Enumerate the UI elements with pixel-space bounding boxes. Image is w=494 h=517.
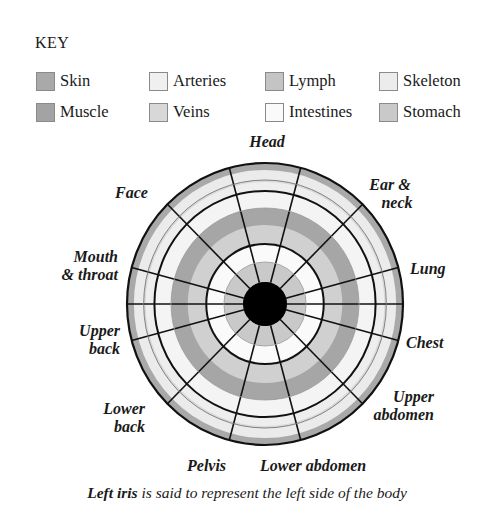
label-ear-neck-line1: Ear & bbox=[360, 176, 420, 194]
label-upper-abdomen: Upper abdomen bbox=[352, 388, 434, 424]
label-ear-neck: Ear & neck bbox=[360, 176, 420, 212]
label-lower-back-line1: Lower bbox=[80, 400, 145, 418]
label-upper-abdomen-line2: abdomen bbox=[352, 406, 434, 424]
label-upper-back-line2: back bbox=[55, 340, 120, 358]
caption-text: is said to represent the left side of th… bbox=[138, 484, 407, 501]
label-ear-neck-line2: neck bbox=[360, 194, 420, 212]
label-lower-abdomen: Lower abdomen bbox=[260, 457, 366, 475]
label-head: Head bbox=[232, 133, 302, 151]
label-mouth-throat: Mouth & throat bbox=[30, 248, 118, 284]
label-upper-back-line1: Upper bbox=[55, 322, 120, 340]
label-pelvis: Pelvis bbox=[187, 457, 226, 475]
label-lower-back-line2: back bbox=[80, 418, 145, 436]
label-chest: Chest bbox=[406, 334, 443, 352]
pupil bbox=[243, 282, 287, 326]
caption-bold: Left iris bbox=[87, 484, 137, 501]
label-face: Face bbox=[115, 184, 148, 202]
label-head-text: Head bbox=[249, 133, 285, 150]
label-lower-back: Lower back bbox=[80, 400, 145, 436]
label-upper-back: Upper back bbox=[55, 322, 120, 358]
label-mouth-throat-line1: Mouth bbox=[30, 248, 118, 266]
caption: Left iris is said to represent the left … bbox=[0, 484, 494, 502]
label-lung: Lung bbox=[410, 260, 446, 278]
label-upper-abdomen-line1: Upper bbox=[352, 388, 434, 406]
label-mouth-throat-line2: & throat bbox=[30, 266, 118, 284]
